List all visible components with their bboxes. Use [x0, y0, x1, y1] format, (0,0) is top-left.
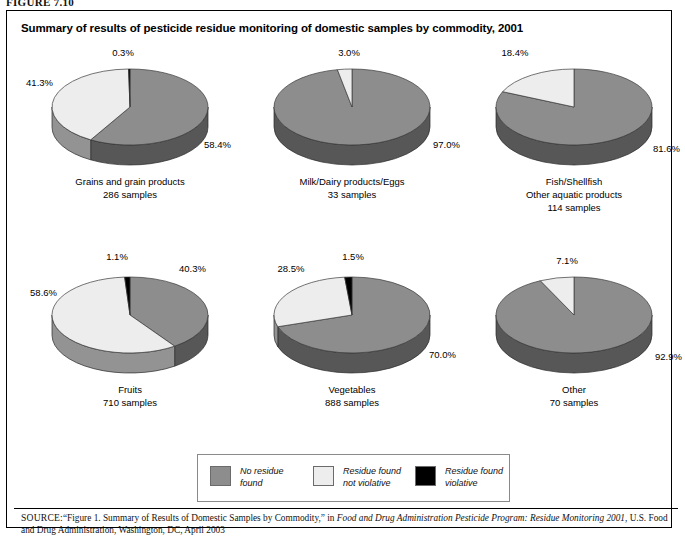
legend-swatch-residue-found-not-violative [313, 466, 334, 486]
source-divider [14, 508, 678, 509]
source-publication-title: Food and Drug Administration Pesticide P… [337, 513, 625, 523]
pie-chart-grid: 58.4%41.3%0.3%Grains and grain products2… [7, 51, 671, 441]
pie-percent-label: 7.1% [527, 255, 607, 266]
pie-category-name: Other [463, 383, 685, 396]
pie-percent-label: 28.5% [251, 263, 331, 274]
pie-category-name: Grains and grain products [19, 175, 241, 188]
pie-caption: Fish/ShellfishOther aquatic products114 … [463, 175, 685, 214]
legend-swatch-no-residue-found [210, 466, 231, 486]
legend-label-line-1: Residue found [445, 466, 503, 478]
pie-category-name: Other aquatic products [463, 188, 685, 201]
chart-legend: No residuefoundResidue foundnot violativ… [197, 454, 510, 502]
legend-item-residue-found-violative[interactable]: Residue foundviolative [415, 466, 503, 489]
pie-graphic [463, 51, 685, 169]
pie-category-name: Vegetables [241, 383, 463, 396]
pie-graphic [463, 259, 685, 377]
pie-percent-label: 40.3% [179, 263, 206, 274]
pie-caption: Milk/Dairy products/Eggs33 samples [241, 175, 463, 201]
pie-caption: Fruits710 samples [19, 383, 241, 409]
pie-percent-label: 70.0% [429, 349, 456, 360]
pie-caption: Other70 samples [463, 383, 685, 409]
legend-label: No residuefound [240, 466, 284, 489]
pie-chart-fish-shellfish: 81.6%18.4%Fish/ShellfishOther aquatic pr… [463, 51, 685, 251]
pie-chart-grains: 58.4%41.3%0.3%Grains and grain products2… [19, 51, 241, 251]
pie-caption: Vegetables888 samples [241, 383, 463, 409]
pie-sample-count: 114 samples [463, 201, 685, 214]
pie-percent-label: 18.4% [475, 47, 555, 58]
legend-label-line-2: found [240, 478, 284, 490]
legend-label-line-2: violative [445, 478, 503, 490]
pie-percent-label: 0.3% [83, 47, 163, 58]
pie-chart-milk-dairy-eggs: 97.0%3.0%Milk/Dairy products/Eggs33 samp… [241, 51, 463, 251]
pie-chart-vegetables: 70.0%28.5%1.5%Vegetables888 samples [241, 259, 463, 459]
pie-percent-label: 97.0% [433, 139, 460, 150]
figure-title: Summary of results of pesticide residue … [21, 22, 523, 34]
pie-caption: Grains and grain products286 samples [19, 175, 241, 201]
figure-panel: Summary of results of pesticide residue … [6, 10, 672, 528]
pie-sample-count: 70 samples [463, 396, 685, 409]
pie-chart-fruits: 40.3%58.6%1.1%Fruits710 samples [19, 259, 241, 459]
legend-item-residue-found-not-violative[interactable]: Residue foundnot violative [313, 466, 401, 489]
pie-sample-count: 286 samples [19, 188, 241, 201]
pie-percent-label: 58.4% [204, 139, 231, 150]
pie-percent-label: 1.5% [313, 251, 393, 262]
pie-percent-label: 58.6% [19, 287, 57, 298]
pie-percent-label: 92.9% [655, 351, 682, 362]
source-note: SOURCE:“Figure 1. Summary of Results of … [21, 512, 671, 537]
pie-graphic [19, 51, 241, 169]
pie-percent-label: 3.0% [309, 47, 389, 58]
pie-category-name: Milk/Dairy products/Eggs [241, 175, 463, 188]
pie-sample-count: 888 samples [241, 396, 463, 409]
pie-graphic [19, 259, 241, 377]
legend-label: Residue foundviolative [445, 466, 503, 489]
pie-chart-other: 92.9%7.1%Other70 samples [463, 259, 685, 459]
pie-sample-count: 33 samples [241, 188, 463, 201]
legend-label-line-1: Residue found [343, 466, 401, 478]
legend-swatch-residue-found-violative [415, 466, 436, 486]
pie-percent-label: 1.1% [77, 251, 157, 262]
legend-label-line-1: No residue [240, 466, 284, 478]
figure-number-label: FIGURE 7.10 [6, 0, 74, 8]
pie-category-name: Fish/Shellfish [463, 175, 685, 188]
legend-label-line-2: not violative [343, 478, 401, 490]
pie-graphic [241, 51, 463, 169]
pie-percent-label: 81.6% [653, 143, 680, 154]
legend-item-no-residue-found[interactable]: No residuefound [210, 466, 284, 489]
legend-label: Residue foundnot violative [343, 466, 401, 489]
pie-sample-count: 710 samples [19, 396, 241, 409]
source-text-part-1: “Figure 1. Summary of Results of Domesti… [63, 513, 337, 523]
pie-percent-label: 41.3% [19, 77, 53, 88]
pie-category-name: Fruits [19, 383, 241, 396]
source-prefix: SOURCE: [21, 512, 63, 523]
